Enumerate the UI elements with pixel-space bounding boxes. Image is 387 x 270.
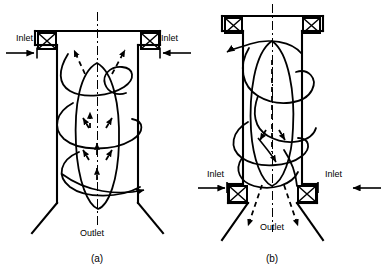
core-arrow-a-6-icon: [106, 118, 112, 128]
inlet-right-a-label: Inlet: [161, 33, 179, 43]
outlet-arrow-b-left-icon: [248, 185, 262, 226]
valve-x-icon: [141, 33, 159, 49]
swirl-b-inner-arrow-icon: [258, 138, 276, 162]
core-arrow-a-3-icon: [83, 150, 89, 160]
vessel-a-cone-left: [32, 203, 57, 233]
vessel-b-cone-left: [222, 203, 248, 240]
core-arrow-b-2-icon: [279, 130, 285, 140]
panel-a-swirl-lines: [57, 54, 144, 196]
outlet-a: Outlet: [80, 228, 105, 238]
valve-x-icon: [298, 186, 316, 202]
outlet-b-label: Outlet: [260, 222, 285, 232]
panel-b: Inlet Inlet: [198, 4, 381, 264]
core-arrow-a-4-icon: [106, 150, 112, 160]
figure-container: Inlet Inlet: [0, 0, 387, 270]
core-arrow-a-up-left-icon: [74, 50, 85, 74]
valve-x-icon: [38, 33, 56, 49]
caption-a: (a): [91, 253, 103, 264]
vortex-chamber-diagram: Inlet Inlet: [0, 0, 387, 270]
caption-b: (b): [266, 253, 278, 264]
outlet-a-label: Outlet: [80, 228, 105, 238]
core-arrow-a-5-icon: [83, 118, 89, 128]
swirl-a-middle: [57, 103, 141, 149]
vessel-a-cone-right: [138, 203, 163, 233]
inlet-right-b-label: Inlet: [325, 169, 343, 179]
inlet-right-b: Inlet: [298, 169, 381, 202]
swirl-a-lower: [62, 152, 140, 196]
swirl-a-upper: [61, 54, 132, 96]
swirl-b-middle: [233, 122, 308, 165]
outlet-arrow-b-right-icon: [284, 185, 298, 226]
valve-x-icon: [229, 186, 247, 202]
inlet-left-b-label: Inlet: [207, 169, 225, 179]
inlet-left-a-label: Inlet: [16, 33, 34, 43]
panel-a: Inlet Inlet: [6, 12, 191, 264]
core-arrow-a-up-right-icon: [112, 50, 125, 74]
vessel-b-cone-right: [297, 203, 323, 240]
